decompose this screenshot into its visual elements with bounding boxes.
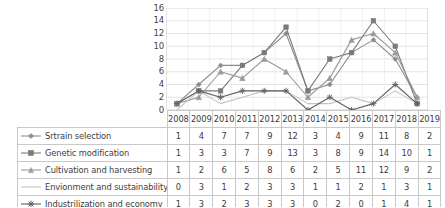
table-cell: 4 — [395, 196, 418, 208]
table-cell: 0 — [350, 196, 373, 208]
data-point-marker — [306, 89, 311, 94]
table-row: Srtrain selection14779123491182 — [18, 128, 441, 145]
year-header-2008: 2008 — [167, 111, 190, 128]
table-header-row: 2008200920102011201220132014201520162017… — [18, 111, 441, 128]
year-header-2017: 2017 — [372, 111, 395, 128]
legend-label: Cultivation and harvesting — [45, 165, 152, 175]
table-cell: 11 — [372, 128, 395, 145]
table-cell: 9 — [350, 145, 373, 162]
data-point-marker — [196, 88, 202, 94]
chart-figure: 1614121086420 20082009201020112012201320… — [0, 0, 445, 207]
data-point-marker — [327, 94, 333, 100]
data-table-wrapper: 2008200920102011201220132014201520162017… — [17, 110, 428, 207]
y-axis-tick-label: 14 — [154, 16, 164, 25]
table-cell: 1 — [372, 196, 395, 208]
table-row: Envionment and sustainability03123311213… — [18, 179, 441, 196]
legend-key — [20, 148, 42, 158]
y-axis: 1614121086420 — [142, 0, 164, 118]
year-header-2018: 2018 — [395, 111, 418, 128]
data-point-marker — [393, 44, 398, 49]
table-cell: 3 — [190, 196, 213, 208]
table-cell: 6 — [281, 162, 304, 179]
table-cell: 12 — [281, 128, 304, 145]
table-row: Cultivation and harvesting12658625111292 — [18, 162, 441, 179]
legend-entry-1[interactable]: Genetic modification — [18, 145, 168, 162]
table-cell: 2 — [418, 128, 441, 145]
table-row: Genetic modification133791338914101 — [18, 145, 441, 162]
table-cell: 9 — [395, 162, 418, 179]
data-point-marker — [284, 25, 289, 30]
legend-key — [20, 131, 42, 141]
legend-marker-triangle-icon — [20, 165, 42, 175]
legend-key — [20, 199, 42, 207]
table-cell: 0 — [304, 196, 327, 208]
table-cell: 3 — [304, 128, 327, 145]
data-point-marker — [262, 50, 267, 55]
table-cell: 1 — [167, 162, 190, 179]
table-cell: 3 — [281, 179, 304, 196]
data-point-marker — [327, 57, 332, 62]
data-table: 2008200920102011201220132014201520162017… — [17, 110, 441, 207]
year-header-2015: 2015 — [327, 111, 350, 128]
table-cell: 6 — [213, 162, 236, 179]
year-header-2016: 2016 — [350, 111, 373, 128]
data-point-marker — [327, 75, 333, 80]
table-body: Srtrain selection14779123491182Genetic m… — [18, 128, 441, 208]
table-cell: 1 — [213, 179, 236, 196]
table-cell: 7 — [235, 128, 258, 145]
table-cell: 8 — [327, 145, 350, 162]
table-cell: 3 — [190, 145, 213, 162]
legend-marker-asterisk-icon — [20, 199, 42, 207]
legend-marker-square-icon — [20, 148, 42, 158]
data-point-marker — [261, 88, 267, 94]
table-cell: 9 — [350, 128, 373, 145]
table-cell: 4 — [190, 128, 213, 145]
legend-entry-3[interactable]: Envionment and sustainability — [18, 179, 168, 196]
data-point-marker — [349, 50, 354, 55]
table-cell: 2 — [418, 162, 441, 179]
table-cell: 8 — [395, 128, 418, 145]
legend-label: Envionment and sustainability — [45, 182, 167, 192]
table-cell: 2 — [235, 179, 258, 196]
table-cell: 7 — [213, 128, 236, 145]
legend-key — [20, 182, 42, 192]
table-cell: 13 — [281, 145, 304, 162]
legend-entry-4[interactable]: Industrilization and economy — [18, 196, 168, 208]
table-cell: 5 — [235, 162, 258, 179]
legend-entry-2[interactable]: Cultivation and harvesting — [18, 162, 168, 179]
legend-key — [20, 165, 42, 175]
table-row: Industrilization and economy132333020141 — [18, 196, 441, 208]
legend-marker-diamond-icon — [20, 131, 42, 141]
data-point-marker — [240, 63, 245, 68]
legend-label: Genetic modification — [45, 148, 129, 158]
legend-entry-0[interactable]: Srtrain selection — [18, 128, 168, 145]
year-header-2012: 2012 — [258, 111, 281, 128]
y-axis-tick-label: 10 — [154, 42, 164, 51]
table-cell: 1 — [167, 196, 190, 208]
table-cell: 2 — [304, 162, 327, 179]
year-header-2011: 2011 — [235, 111, 258, 128]
data-point-marker — [218, 89, 223, 94]
table-cell: 1 — [167, 128, 190, 145]
y-axis-tick-label: 6 — [159, 67, 164, 76]
data-point-marker — [217, 94, 223, 100]
table-cell: 9 — [258, 128, 281, 145]
table-cell: 1 — [418, 145, 441, 162]
table-cell: 5 — [327, 162, 350, 179]
year-header-2019: 2019 — [418, 111, 441, 128]
table-cell: 12 — [372, 162, 395, 179]
y-axis-tick-label: 12 — [154, 29, 164, 38]
table-cell: 0 — [167, 179, 190, 196]
year-header-2014: 2014 — [304, 111, 327, 128]
table-cell: 2 — [213, 196, 236, 208]
table-corner-cell — [18, 111, 168, 128]
y-axis-tick-label: 16 — [154, 4, 164, 13]
table-cell: 1 — [167, 145, 190, 162]
table-cell: 2 — [350, 179, 373, 196]
legend-marker-none-icon — [20, 182, 42, 192]
table-cell: 3 — [258, 179, 281, 196]
table-cell: 3 — [258, 196, 281, 208]
table-cell: 14 — [372, 145, 395, 162]
table-cell: 3 — [281, 196, 304, 208]
table-cell: 1 — [304, 179, 327, 196]
